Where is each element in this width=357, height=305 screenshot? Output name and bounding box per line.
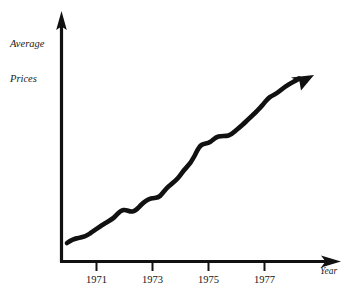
x-tick-label-1971: 1971 bbox=[86, 274, 107, 285]
y-axis-label-line-2: Prices bbox=[10, 73, 44, 85]
chart-figure: Average Prices Year 1971 1973 1975 1977 bbox=[0, 0, 357, 305]
chart-canvas bbox=[0, 0, 357, 305]
x-tick-label-1975: 1975 bbox=[198, 274, 219, 285]
y-axis-label-line-1: Average bbox=[10, 38, 44, 50]
data-series-line bbox=[67, 79, 299, 244]
x-tick-label-1973: 1973 bbox=[142, 274, 163, 285]
x-tick-label-1977: 1977 bbox=[254, 274, 275, 285]
x-axis-label: Year bbox=[320, 266, 337, 277]
y-axis-label: Average Prices bbox=[10, 14, 44, 108]
